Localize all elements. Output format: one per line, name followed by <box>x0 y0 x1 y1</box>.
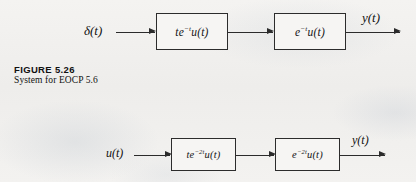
top-diagram-block-2[interactable]: e−tu(t) <box>274 13 346 50</box>
bottom-diagram-input-label: u(t) <box>106 146 123 161</box>
figure-caption-subtitle: System for EOCP 5.6 <box>14 75 98 87</box>
top-diagram-output-label: y(t) <box>362 10 380 26</box>
bottom-diagram-output-label: y(t) <box>352 133 369 148</box>
top-diagram-output-wire <box>346 32 400 33</box>
bottom-diagram-output-arrowhead <box>379 151 386 157</box>
top-diagram-block-1-expression: te−tu(t) <box>175 26 208 38</box>
top-diagram-middle-arrowhead <box>267 28 274 34</box>
top-diagram-block-1[interactable]: te−tu(t) <box>156 13 228 50</box>
bottom-diagram-block-1[interactable]: te−2tu(t) <box>171 138 236 171</box>
bottom-diagram-block-1-expression: te−2tu(t) <box>187 149 221 160</box>
bottom-diagram-block-2-expression: e−2tu(t) <box>292 149 323 160</box>
top-diagram-block-2-expression: e−tu(t) <box>295 26 325 38</box>
top-diagram-output-arrowhead <box>394 28 401 34</box>
top-diagram-input-label: δ(t) <box>84 23 102 39</box>
top-diagram-input-arrowhead <box>149 28 156 34</box>
figure-caption: FIGURE 5.26 System for EOCP 5.6 <box>14 64 98 87</box>
bottom-diagram-block-2[interactable]: e−2tu(t) <box>275 138 340 171</box>
figure-5-26: δ(t) te−tu(t) e−tu(t) y(t) FIGURE 5.26 S… <box>0 0 416 182</box>
figure-caption-title: FIGURE 5.26 <box>14 64 98 75</box>
